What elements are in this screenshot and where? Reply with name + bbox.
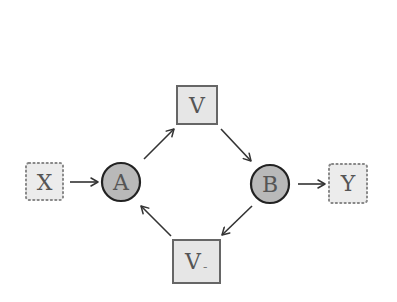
node-a-label: A xyxy=(112,170,130,195)
edge-a-to-v-top xyxy=(144,129,174,159)
edge-b-to-v-bottom xyxy=(222,206,252,235)
node-v-bottom-subscript: - xyxy=(203,259,207,274)
node-a: A xyxy=(102,163,140,201)
causal-diagram: X A V V - B Y xyxy=(0,0,397,302)
node-v-top-label: V xyxy=(188,93,206,118)
node-x-label: X xyxy=(37,170,53,195)
node-v-bottom: V - xyxy=(173,240,220,283)
node-b: B xyxy=(251,165,289,203)
node-x: X xyxy=(26,163,63,200)
node-y-label: Y xyxy=(340,171,356,196)
node-b-label: B xyxy=(262,172,278,197)
edge-v-bottom-to-a xyxy=(141,206,171,236)
node-v-top: V xyxy=(177,86,217,124)
node-v-bottom-label: V xyxy=(184,249,202,274)
node-y: Y xyxy=(329,164,367,203)
edge-v-top-to-b xyxy=(221,129,251,161)
